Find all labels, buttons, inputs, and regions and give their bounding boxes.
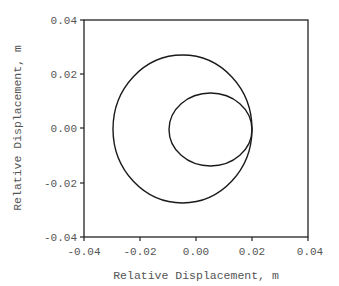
x-axis-title: Relative Displacement, m xyxy=(113,269,279,282)
inner-loop-curve xyxy=(169,93,252,166)
outer-loop-curve xyxy=(113,55,252,203)
plot-frame xyxy=(84,20,308,237)
y-tick-label: -0.02 xyxy=(44,178,77,190)
displacement-orbit-chart: 0.04 0.02 0.00 -0.02 -0.04 -0.04 -0.02 0… xyxy=(0,0,339,286)
x-tick-label: -0.02 xyxy=(123,246,156,258)
x-tick-label: 0.02 xyxy=(239,246,265,258)
x-tick-label: 0.04 xyxy=(297,246,324,258)
y-tick-label: 0.04 xyxy=(51,15,78,27)
y-tick-label: 0.02 xyxy=(51,69,77,81)
x-tick-label: -0.04 xyxy=(67,246,100,258)
plot-area xyxy=(113,55,252,203)
y-axis-title: Relative Displacement, m xyxy=(11,45,24,211)
y-axis: 0.04 0.02 0.00 -0.02 -0.04 xyxy=(44,15,84,244)
x-tick-label: 0.00 xyxy=(183,246,209,258)
x-axis: -0.04 -0.02 0.00 0.02 0.04 xyxy=(67,237,323,258)
y-tick-label: 0.00 xyxy=(51,123,77,135)
y-tick-label: -0.04 xyxy=(44,232,77,244)
